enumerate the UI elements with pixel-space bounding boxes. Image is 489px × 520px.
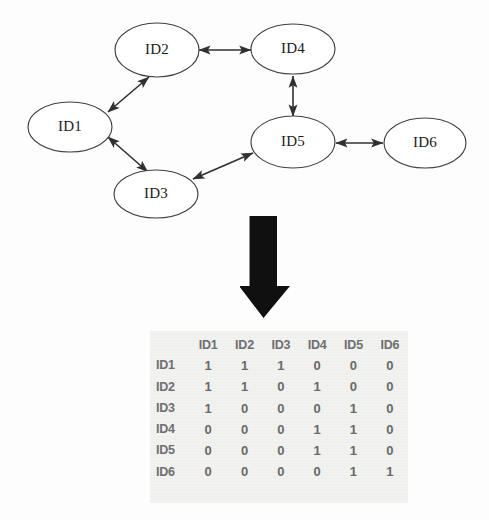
matrix-cell-id2-id6: 0 bbox=[372, 377, 408, 398]
matrix-cell-id3-id2: 0 bbox=[226, 398, 262, 419]
matrix-cell-id3-id6: 0 bbox=[372, 398, 408, 419]
matrix-cell-id2-id1: 1 bbox=[190, 377, 226, 398]
matrix-row-header-id5: ID5 bbox=[150, 441, 190, 462]
matrix-cell-id5-id4: 1 bbox=[299, 441, 335, 462]
transform-arrow bbox=[240, 213, 296, 321]
graph-panel: ID1 ID2 ID3 ID4 ID5 bbox=[0, 0, 489, 230]
matrix-cell-id6-id3: 0 bbox=[263, 462, 299, 483]
matrix-cell-id4-id1: 0 bbox=[190, 419, 226, 440]
matrix-cell-id1-id1: 1 bbox=[190, 356, 226, 377]
table-row: ID6 0 0 0 0 1 1 bbox=[150, 462, 408, 483]
matrix-cell-id2-id3: 0 bbox=[263, 377, 299, 398]
matrix-body: ID1 1 1 1 0 0 0 ID2 1 1 0 1 0 0 bbox=[150, 356, 408, 484]
node-id4[interactable]: ID4 bbox=[251, 24, 335, 74]
matrix-cell-id5-id1: 0 bbox=[190, 441, 226, 462]
node-id6[interactable]: ID6 bbox=[384, 118, 466, 168]
matrix-col-header-id5: ID5 bbox=[335, 335, 371, 356]
table-row: ID1 1 1 1 0 0 0 bbox=[150, 356, 408, 377]
edge-id1-id3 bbox=[108, 137, 148, 172]
matrix-col-header-id1: ID1 bbox=[190, 335, 226, 356]
matrix-cell-id3-id1: 1 bbox=[190, 398, 226, 419]
matrix-cell-id6-id4: 0 bbox=[299, 462, 335, 483]
matrix-col-header-id4: ID4 bbox=[299, 335, 335, 356]
matrix-cell-id3-id5: 1 bbox=[335, 398, 371, 419]
edge-id3-id5 bbox=[193, 153, 253, 179]
matrix-cell-id4-id5: 1 bbox=[335, 419, 371, 440]
graph-diagram: ID1 ID2 ID3 ID4 ID5 bbox=[0, 0, 489, 230]
node-id1[interactable]: ID1 bbox=[28, 102, 112, 152]
node-id3[interactable]: ID3 bbox=[114, 170, 198, 218]
matrix-row-header-id6: ID6 bbox=[150, 462, 190, 483]
table-row: ID4 0 0 0 1 1 0 bbox=[150, 419, 408, 440]
matrix-cell-id5-id2: 0 bbox=[226, 441, 262, 462]
node-id5[interactable]: ID5 bbox=[251, 116, 335, 168]
matrix-cell-id6-id5: 1 bbox=[335, 462, 371, 483]
table-row: ID2 1 1 0 1 0 0 bbox=[150, 377, 408, 398]
matrix-header: ID1 ID2 ID3 ID4 ID5 ID6 bbox=[150, 335, 408, 356]
matrix-row-header-id2: ID2 bbox=[150, 377, 190, 398]
matrix-cell-id6-id1: 0 bbox=[190, 462, 226, 483]
matrix-cell-id5-id6: 0 bbox=[372, 441, 408, 462]
node-id2[interactable]: ID2 bbox=[115, 23, 199, 77]
matrix-col-header-id3: ID3 bbox=[263, 335, 299, 356]
matrix-cell-id4-id4: 1 bbox=[299, 419, 335, 440]
matrix-cell-id1-id2: 1 bbox=[226, 356, 262, 377]
down-arrow-icon bbox=[240, 213, 296, 321]
edge-id1-id2 bbox=[108, 77, 149, 112]
matrix-cell-id4-id6: 0 bbox=[372, 419, 408, 440]
table-row: ID5 0 0 0 1 1 0 bbox=[150, 441, 408, 462]
matrix-row-header-id3: ID3 bbox=[150, 398, 190, 419]
node-label-id2: ID2 bbox=[145, 41, 169, 57]
matrix-cell-id1-id6: 0 bbox=[372, 356, 408, 377]
node-label-id3: ID3 bbox=[144, 185, 168, 201]
matrix-row-header-id4: ID4 bbox=[150, 419, 190, 440]
matrix-col-header-id6: ID6 bbox=[372, 335, 408, 356]
matrix-cell-id2-id4: 1 bbox=[299, 377, 335, 398]
matrix-cell-id1-id4: 0 bbox=[299, 356, 335, 377]
adjacency-matrix-panel: ID1 ID2 ID3 ID4 ID5 ID6 ID1 1 1 1 0 0 0 bbox=[150, 331, 408, 503]
matrix-cell-id4-id2: 0 bbox=[226, 419, 262, 440]
matrix-row-header-id1: ID1 bbox=[150, 356, 190, 377]
node-label-id4: ID4 bbox=[281, 40, 305, 56]
matrix-cell-id1-id3: 1 bbox=[263, 356, 299, 377]
matrix-cell-id5-id5: 1 bbox=[335, 441, 371, 462]
table-row: ID3 1 0 0 0 1 0 bbox=[150, 398, 408, 419]
matrix-cell-id6-id6: 1 bbox=[372, 462, 408, 483]
matrix-cell-id6-id2: 0 bbox=[226, 462, 262, 483]
matrix-cell-id2-id2: 1 bbox=[226, 377, 262, 398]
adjacency-matrix-table: ID1 ID2 ID3 ID4 ID5 ID6 ID1 1 1 1 0 0 0 bbox=[150, 335, 408, 483]
matrix-cell-id2-id5: 0 bbox=[335, 377, 371, 398]
matrix-col-header-id2: ID2 bbox=[226, 335, 262, 356]
matrix-cell-id3-id4: 0 bbox=[299, 398, 335, 419]
matrix-corner-cell bbox=[150, 335, 190, 356]
matrix-cell-id1-id5: 0 bbox=[335, 356, 371, 377]
graph-nodes: ID1 ID2 ID3 ID4 ID5 bbox=[28, 23, 466, 218]
node-label-id6: ID6 bbox=[413, 134, 437, 150]
matrix-header-row: ID1 ID2 ID3 ID4 ID5 ID6 bbox=[150, 335, 408, 356]
node-label-id1: ID1 bbox=[58, 118, 82, 134]
node-label-id5: ID5 bbox=[281, 133, 305, 149]
matrix-cell-id3-id3: 0 bbox=[263, 398, 299, 419]
figure-root: ID1 ID2 ID3 ID4 ID5 bbox=[0, 0, 489, 520]
matrix-cell-id5-id3: 0 bbox=[263, 441, 299, 462]
matrix-cell-id4-id3: 0 bbox=[263, 419, 299, 440]
